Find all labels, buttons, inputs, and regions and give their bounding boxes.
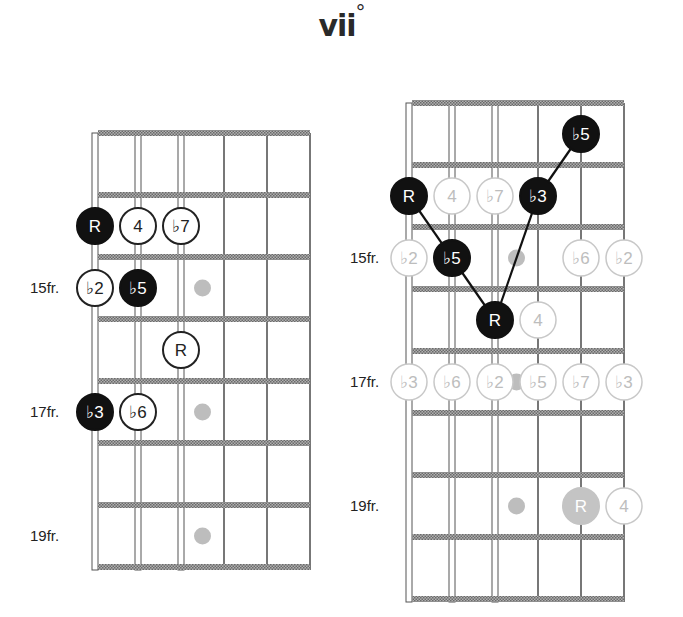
note-faded: 4 [606,488,642,524]
fret [412,348,624,354]
note-faded: ♭2 [391,240,427,276]
note-faded: ♭3 [391,364,427,400]
note-faded: ♭7 [477,178,513,214]
fret [412,472,624,478]
note-faded: ♭7 [563,364,599,400]
note-open: ♭6 [120,394,156,430]
note-faded-filled: R [563,488,599,524]
fret [412,162,624,168]
fret [412,286,624,292]
note-label: ♭7 [572,373,589,392]
note-label: R [175,341,187,360]
note-label: ♭6 [443,373,460,392]
fret [98,564,310,570]
note-filled: ♭3 [520,178,556,214]
note-filled: ♭5 [434,240,470,276]
note-open: ♭7 [163,208,199,244]
note-label: ♭5 [572,125,589,144]
note-faded: ♭6 [434,364,470,400]
note-label: ♭2 [86,279,103,298]
fret-position-label: 19fr. [350,497,379,514]
fret [98,254,310,260]
note-open: ♭2 [77,270,113,306]
fret-position-label: 19fr. [30,527,59,544]
fret [412,410,624,416]
fret-position-label: 17fr. [30,403,59,420]
note-label: ♭6 [129,403,146,422]
fret [412,534,624,540]
note-faded: ♭2 [477,364,513,400]
note-label: R [575,497,587,516]
note-open: 4 [120,208,156,244]
fret [412,224,624,230]
note-filled: ♭5 [563,116,599,152]
note-label: ♭5 [443,249,460,268]
note-label: ♭7 [172,217,189,236]
note-faded: ♭2 [606,240,642,276]
note-filled: ♭5 [120,270,156,306]
fret [98,316,310,322]
fret-inlay-dot [508,498,525,515]
note-filled: R [391,178,427,214]
note-label: 4 [447,187,456,206]
note-faded: ♭5 [520,364,556,400]
note-open: R [163,332,199,368]
fret-inlay-dot [194,528,211,545]
note-label: R [89,217,101,236]
note-filled: R [477,302,513,338]
note-faded: 4 [520,302,556,338]
note-filled: R [77,208,113,244]
note-label: ♭3 [529,187,546,206]
note-label: 4 [533,311,542,330]
note-label: R [489,311,501,330]
note-label: ♭6 [572,249,589,268]
shape-connector-line [495,196,538,320]
note-faded: ♭3 [606,364,642,400]
note-label: ♭5 [129,279,146,298]
note-label: ♭2 [615,249,632,268]
fret [98,502,310,508]
note-faded: 4 [434,178,470,214]
note-label: ♭3 [86,403,103,422]
left-fretboard: 4♭7♭2R♭6R♭5♭3 [77,130,310,570]
string [92,133,98,570]
note-filled: ♭3 [77,394,113,430]
fret-position-label: 15fr. [30,279,59,296]
fret-position-label: 15fr. [350,249,379,266]
note-label: ♭2 [400,249,417,268]
fret [98,130,310,136]
note-label: ♭7 [486,187,503,206]
fret-inlay-dot [194,280,211,297]
note-label: 4 [133,217,142,236]
fret-inlay-dot [194,404,211,421]
fret [98,440,310,446]
note-label: ♭5 [529,373,546,392]
fret [98,192,310,198]
note-label: ♭3 [400,373,417,392]
fret [412,596,624,602]
right-fretboard: 4♭7♭2♭6♭24♭3♭6♭2♭5♭7♭34R♭5R♭3♭5R [391,100,642,602]
note-label: ♭2 [486,373,503,392]
note-faded: ♭6 [563,240,599,276]
fret [98,378,310,384]
note-label: ♭3 [615,373,632,392]
note-label: 4 [619,497,628,516]
fret [412,100,624,106]
note-label: R [403,187,415,206]
fretboard-diagrams: 4♭7♭2R♭6R♭5♭34♭7♭2♭6♭24♭3♭6♭2♭5♭7♭34R♭5R… [0,0,683,617]
fret-position-label: 17fr. [350,373,379,390]
